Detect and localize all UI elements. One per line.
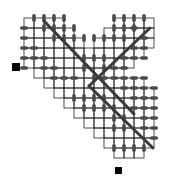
vertical-bar [102,104,106,112]
start-marker [12,63,20,71]
horizontal-bar [140,106,148,110]
horizontal-bar [50,76,58,80]
vertical-bar [32,14,36,22]
horizontal-bar [130,96,138,100]
vertical-bar [72,94,76,102]
vertical-bar [142,144,146,152]
horizontal-bar [30,56,38,60]
horizontal-bar [130,86,138,90]
vertical-bar [112,114,116,122]
vertical-bar [92,54,96,62]
horizontal-bar [130,56,138,60]
horizontal-bar [140,86,148,90]
horizontal-bar [30,46,38,50]
vertical-bar [132,144,136,152]
grid-path-diagram [0,0,184,183]
vertical-bar [112,124,116,132]
vertical-bar [92,34,96,42]
vertical-bar [72,34,76,42]
horizontal-bar [150,96,158,100]
horizontal-bar [130,26,138,30]
vertical-bar [132,14,136,22]
horizontal-bar [120,76,128,80]
horizontal-bar [150,86,158,90]
vertical-bar [112,24,116,32]
vertical-bar [52,34,56,42]
horizontal-bar [140,126,148,130]
vertical-bar [122,24,126,32]
grid-cell [94,118,104,128]
vertical-bar [142,14,146,22]
vertical-bar [82,104,86,112]
horizontal-bar [150,126,158,130]
grid-cell [54,88,64,98]
vertical-bar [122,124,126,132]
horizontal-bar [120,86,128,90]
horizontal-bar [110,76,118,80]
horizontal-bar [140,76,148,80]
horizontal-bar [20,36,28,40]
horizontal-bar [140,56,148,60]
vertical-bar [122,144,126,152]
vertical-bar [62,24,66,32]
vertical-bars [32,14,146,152]
horizontal-bar [140,96,148,100]
vertical-bar [82,94,86,102]
horizontal-bar [150,106,158,110]
vertical-bar [112,144,116,152]
horizontal-bar [150,136,158,140]
vertical-bar [122,14,126,22]
horizontal-bar [150,116,158,120]
horizontal-bar [50,66,58,70]
vertical-bar [102,34,106,42]
horizontal-bar [130,76,138,80]
horizontal-bar [20,46,28,50]
horizontal-bar [40,56,48,60]
horizontal-bar [70,76,78,80]
vertical-bar [92,104,96,112]
horizontal-bar [20,26,28,30]
vertical-bar [42,24,46,32]
horizontal-bar [60,76,68,80]
diagonal-lines [44,21,153,148]
horizontal-bar [40,66,48,70]
grid-cell [64,58,74,68]
horizontal-bars [20,26,158,140]
end-marker [115,167,122,174]
diagram-canvas [0,0,184,183]
vertical-bar [52,14,56,22]
vertical-bar [112,14,116,22]
grid-cell [94,128,104,138]
vertical-bar [122,34,126,42]
vertical-bar [82,34,86,42]
vertical-bar [102,54,106,62]
horizontal-bar [120,66,128,70]
horizontal-bar [140,116,148,120]
vertical-bar [112,34,116,42]
grid-cell [84,118,94,128]
grid-cell [54,48,64,58]
horizontal-bar [20,66,28,70]
horizontal-bar [20,56,28,60]
vertical-bar [62,14,66,22]
vertical-bar [72,24,76,32]
horizontal-bar [140,46,148,50]
vertical-bar [92,94,96,102]
